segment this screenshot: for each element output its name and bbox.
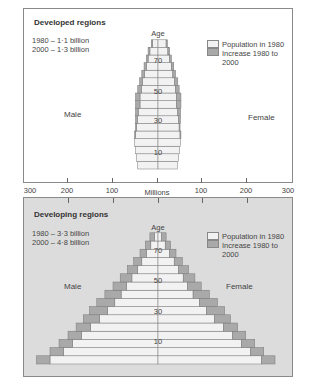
pyramid-bar bbox=[158, 139, 181, 147]
age-tick-70: 70 bbox=[154, 56, 162, 65]
pyramid-bar bbox=[97, 298, 115, 306]
pyramid-bar bbox=[170, 55, 172, 63]
pyramid-bar bbox=[179, 266, 189, 274]
pyramid-bar bbox=[137, 266, 158, 274]
pyramid-bar bbox=[64, 348, 159, 356]
developing-regions-panel: Developing regions 1980 – 3·3 billion 20… bbox=[23, 197, 293, 377]
pyramid-bar bbox=[193, 290, 209, 298]
pyramid-bar bbox=[166, 40, 167, 48]
pyramid-bar bbox=[178, 108, 181, 116]
pyramid-bar bbox=[188, 282, 202, 290]
pyramid-bar bbox=[179, 123, 180, 131]
pyramid-bar bbox=[165, 241, 170, 249]
tick-200-right: 200 bbox=[240, 186, 253, 195]
pyramid-bar bbox=[232, 331, 246, 339]
pyramid-bar bbox=[148, 47, 150, 55]
pyramid-bar bbox=[138, 108, 158, 116]
tick-300-right: 300 bbox=[282, 186, 295, 195]
pyramid-bar bbox=[140, 78, 143, 86]
pyramid-bar bbox=[179, 116, 181, 124]
pyramid-bar bbox=[158, 47, 168, 55]
pyramid-bar bbox=[158, 233, 162, 241]
tick-100-right: 100 bbox=[195, 186, 208, 195]
age-tick-70: 70 bbox=[154, 246, 162, 255]
pyramid-bar bbox=[180, 131, 181, 139]
pyramid-bar bbox=[91, 323, 159, 331]
pyramid-bar bbox=[150, 233, 155, 241]
pyramid-bar bbox=[138, 161, 158, 169]
tick-200-left: 200 bbox=[61, 186, 74, 195]
pyramid-bar bbox=[113, 282, 127, 290]
pyramid-bar bbox=[144, 63, 146, 71]
pyramid-bar bbox=[134, 257, 142, 265]
pyramid-bar bbox=[120, 274, 132, 282]
pyramid-bar bbox=[262, 356, 276, 364]
pyramid-bar bbox=[136, 101, 141, 109]
pyramid-bar bbox=[158, 290, 193, 298]
pyramid-bar bbox=[158, 339, 241, 347]
pyramid-bar bbox=[250, 348, 264, 356]
pyramid-bar bbox=[83, 315, 99, 323]
pyramid-bar bbox=[50, 348, 64, 356]
age-tick-30: 30 bbox=[154, 307, 162, 316]
x-axis-label: Millions bbox=[144, 188, 169, 197]
pyramid-bar bbox=[136, 93, 141, 101]
pyramid-bar bbox=[59, 339, 73, 347]
pyramid-bar bbox=[136, 131, 159, 139]
pyramid-bar bbox=[76, 323, 90, 331]
pyramid-bar bbox=[241, 339, 255, 347]
pyramid-bar bbox=[136, 116, 138, 124]
age-axis-label: Age bbox=[151, 29, 164, 38]
pyramid-bar bbox=[176, 101, 181, 109]
pyramid-bar bbox=[142, 257, 158, 265]
pyramid-bar bbox=[158, 131, 180, 139]
tick-mark bbox=[246, 178, 247, 183]
pyramid-bar bbox=[158, 161, 177, 169]
pyramid-bar bbox=[158, 108, 178, 116]
pyramid-bar bbox=[158, 356, 262, 364]
pyramid-bar bbox=[214, 315, 230, 323]
tick-100-left: 100 bbox=[106, 186, 119, 195]
pyramid-bar bbox=[135, 139, 158, 147]
pyramid-bar bbox=[174, 257, 182, 265]
pyramid-bar bbox=[136, 108, 139, 116]
age-tick-30: 30 bbox=[154, 116, 162, 125]
pyramid-bar bbox=[108, 307, 158, 315]
pyramid-bar bbox=[153, 40, 158, 48]
pyramid-bar bbox=[50, 356, 158, 364]
pyramid-bar bbox=[142, 70, 145, 78]
pyramid-bar bbox=[158, 257, 174, 265]
pyramid-bar bbox=[158, 348, 250, 356]
pyramid-bar bbox=[158, 282, 188, 290]
pyramid-bar bbox=[207, 307, 225, 315]
pyramid-bar bbox=[158, 70, 173, 78]
age-tick-10: 10 bbox=[154, 337, 162, 346]
pyramid-bar bbox=[158, 266, 179, 274]
pyramid-bar bbox=[145, 70, 159, 78]
pyramid-bar bbox=[90, 307, 108, 315]
age-tick-50: 50 bbox=[154, 276, 162, 285]
pyramid-bar bbox=[199, 298, 217, 306]
pyramid-bar bbox=[73, 339, 159, 347]
pyramid-bar bbox=[158, 331, 232, 339]
pyramid-bar bbox=[158, 307, 207, 315]
pyramid-bar bbox=[146, 55, 148, 63]
tick-300-left: 300 bbox=[24, 186, 37, 195]
pyramid-bar bbox=[158, 298, 199, 306]
pyramid-bar bbox=[162, 233, 167, 241]
pyramid-bar bbox=[172, 63, 174, 71]
pyramid-bar bbox=[150, 47, 158, 55]
pyramid-bar bbox=[127, 266, 137, 274]
pyramid-bar bbox=[121, 290, 158, 298]
tick-mark bbox=[67, 178, 68, 183]
pyramid-bar bbox=[158, 40, 166, 48]
pyramid-bar bbox=[223, 323, 237, 331]
age-tick-50: 50 bbox=[154, 87, 162, 96]
pyramid-bar bbox=[173, 70, 176, 78]
pyramid-bar bbox=[105, 290, 121, 298]
pyramid-bar bbox=[158, 78, 175, 86]
pyramid-bar bbox=[154, 233, 158, 241]
pyramid-bar bbox=[168, 47, 170, 55]
age-tick-10: 10 bbox=[154, 148, 162, 157]
age-axis-label: Age bbox=[151, 223, 164, 232]
